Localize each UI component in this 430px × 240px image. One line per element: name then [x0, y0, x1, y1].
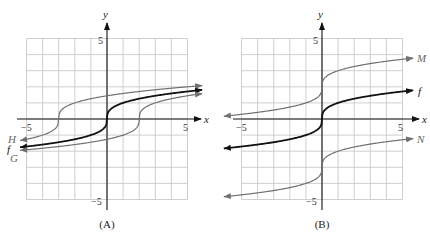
panel-b-y-min-label: −5	[306, 196, 317, 207]
panel-a-y-max-label: 5	[98, 35, 103, 46]
arrow-left-icon	[20, 136, 27, 142]
panel-b-curves	[224, 58, 413, 199]
panel-b: −5 5 5 −5 x y MfN (B)	[224, 8, 427, 231]
panel-a: −5 5 5 −5 x y HfG (A)	[7, 8, 209, 231]
panel-b-x-max-label: 5	[398, 122, 403, 133]
panel-a-x-min-label: −5	[21, 122, 32, 133]
panel-a-y-min-label: −5	[91, 196, 102, 207]
curve-label-n: N	[416, 133, 425, 145]
curve-label-f: f	[418, 85, 423, 97]
panel-a-x-axis-label: x	[203, 113, 209, 125]
panel-b-x-axis-label: x	[421, 113, 427, 125]
panel-b-y-axis-label: y	[317, 8, 323, 20]
panel-a-y-axis-label: y	[102, 8, 108, 20]
curve-label-g: G	[10, 152, 18, 164]
panel-b-y-max-label: 5	[313, 35, 318, 46]
panel-b-x-min-label: −5	[236, 122, 247, 133]
panel-a-caption: (A)	[99, 218, 115, 231]
panel-b-caption: (B)	[315, 218, 330, 231]
panel-a-curve-labels: HfG	[7, 133, 18, 164]
curve-label-m: M	[416, 52, 427, 64]
panel-b-curve-labels: MfN	[416, 52, 427, 145]
panel-a-x-max-label: 5	[183, 122, 188, 133]
chart-figure: −5 5 5 −5 x y HfG (A) −5 5 5 −5 x y MfN …	[0, 0, 430, 240]
curve-g	[20, 94, 202, 151]
